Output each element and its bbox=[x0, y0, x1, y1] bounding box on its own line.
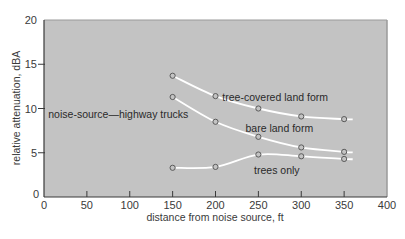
data-point-marker bbox=[213, 119, 218, 124]
y-tick-label: 0 bbox=[33, 188, 39, 200]
data-point-marker bbox=[256, 106, 261, 111]
y-tick-label: 15 bbox=[25, 58, 37, 70]
data-point-marker bbox=[170, 73, 175, 78]
annotation-label: bare land form bbox=[246, 122, 314, 134]
x-tick-label: 350 bbox=[335, 199, 353, 211]
x-tick-label: 200 bbox=[206, 199, 224, 211]
x-tick-label: 150 bbox=[163, 199, 181, 211]
data-point-marker bbox=[342, 117, 347, 122]
x-tick-label: 250 bbox=[249, 199, 267, 211]
x-axis-title: distance from noise source, ft bbox=[146, 211, 283, 223]
data-point-marker bbox=[299, 145, 304, 150]
x-tick-label: 300 bbox=[292, 199, 310, 211]
data-point-marker bbox=[213, 164, 218, 169]
annotation-label: noise-source—highway trucks bbox=[48, 108, 188, 120]
data-point-marker bbox=[299, 114, 304, 119]
data-point-marker bbox=[170, 94, 175, 99]
x-tick-label: 400 bbox=[378, 199, 396, 211]
x-tick-label: 0 bbox=[41, 199, 47, 211]
annotation-label: tree-covered land form bbox=[222, 91, 328, 103]
data-point-marker bbox=[299, 154, 304, 159]
data-point-marker bbox=[342, 149, 347, 154]
x-tick-label: 100 bbox=[121, 199, 139, 211]
y-axis-title: relative attenuation, dBA bbox=[10, 51, 22, 165]
data-point-marker bbox=[342, 156, 347, 161]
annotation-label: trees only bbox=[254, 164, 300, 176]
data-point-marker bbox=[256, 134, 261, 139]
y-tick-label: 10 bbox=[25, 103, 37, 115]
x-tick-label: 50 bbox=[81, 199, 93, 211]
y-tick-label: 5 bbox=[31, 147, 37, 159]
data-point-marker bbox=[256, 152, 261, 157]
data-point-marker bbox=[213, 94, 218, 99]
data-point-marker bbox=[170, 165, 175, 170]
y-tick-label: 20 bbox=[25, 14, 37, 26]
chart: 05010015020025030035040005101520 noise-s… bbox=[0, 0, 405, 239]
